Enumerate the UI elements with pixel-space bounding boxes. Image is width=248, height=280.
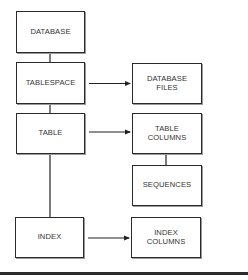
node-label: DATABASE FILES [147, 75, 187, 92]
node-tablespace: TABLESPACE [16, 62, 85, 104]
node-table: TABLE [16, 113, 85, 154]
node-label: INDEX COLUMNS [147, 229, 186, 246]
node-sequences: SEQUENCES [132, 165, 202, 206]
node-index-columns: INDEX COLUMNS [131, 217, 201, 258]
node-index: INDEX [15, 217, 84, 258]
node-database-files: DATABASE FILES [132, 63, 202, 104]
node-label: SEQUENCES [143, 181, 192, 189]
node-label: DATABASE [30, 28, 70, 36]
node-label: INDEX [38, 233, 62, 241]
node-label: TABLE COLUMNS [148, 125, 187, 142]
node-database: DATABASE [16, 11, 85, 53]
node-label: TABLESPACE [26, 79, 76, 87]
node-table-columns: TABLE COLUMNS [132, 113, 202, 154]
node-label: TABLE [39, 129, 63, 137]
bottom-divider [0, 272, 248, 275]
